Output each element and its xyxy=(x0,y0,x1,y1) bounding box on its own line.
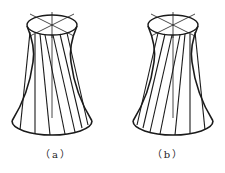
figure-a: （a） xyxy=(0,0,112,173)
caption-a: （a） xyxy=(0,146,112,161)
caption-b: （b） xyxy=(112,146,224,161)
figure-b: （b） xyxy=(112,0,224,173)
